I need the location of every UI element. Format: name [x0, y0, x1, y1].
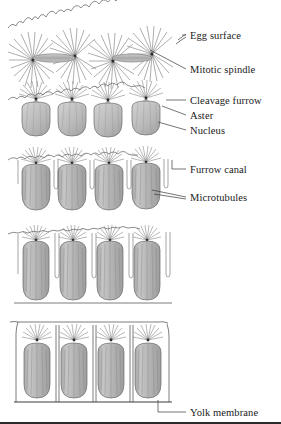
label-yolk-membrane: Yolk membrane — [190, 408, 258, 419]
label-egg-surface: Egg surface — [190, 31, 241, 42]
nucleus-shapes — [22, 101, 160, 137]
label-mitotic-spindle: Mitotic spindle — [190, 65, 255, 76]
label-nucleus: Nucleus — [190, 126, 225, 137]
label-microtubules: Microtubules — [190, 193, 247, 204]
label-cleavage-furrow: Cleavage furrow — [190, 96, 262, 107]
cellularization-figure: Egg surface Mitotic spindle Cleavage fur… — [0, 0, 281, 424]
label-aster: Aster — [190, 111, 213, 122]
stage-1-group — [8, 0, 195, 89]
complete-cells — [24, 343, 161, 398]
stage-2-group — [8, 80, 163, 137]
stage-4-group — [8, 225, 172, 303]
stage-3-group — [8, 146, 168, 210]
stage-5-group — [10, 322, 172, 403]
elongating-cells — [22, 163, 160, 210]
long-cells — [23, 241, 160, 300]
label-furrow-canal: Furrow canal — [190, 165, 247, 176]
